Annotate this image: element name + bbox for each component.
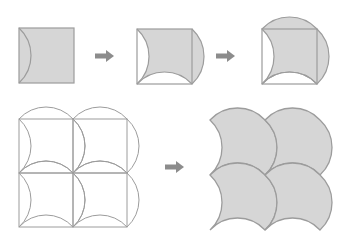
grid-cell [73, 119, 127, 173]
step-1-square [19, 28, 74, 83]
arrow-head [176, 161, 184, 173]
grid-cell [19, 119, 73, 173]
arrow-head [227, 50, 235, 62]
step-2-shape [137, 29, 204, 84]
top-arc [19, 107, 73, 119]
arrow-head [106, 50, 114, 62]
arrow-shaft [216, 54, 228, 59]
outline-grid [19, 107, 139, 227]
step-3-tile [262, 17, 329, 84]
tessellation-diagram [0, 0, 348, 246]
tessellation-result [210, 108, 332, 230]
top-arc [73, 107, 127, 119]
square [19, 28, 74, 83]
arrow-icon [165, 161, 184, 173]
arrow-shaft [95, 54, 107, 59]
arrow-icon [95, 50, 114, 62]
grid-cell [19, 173, 73, 227]
arrow-icon [216, 50, 235, 62]
right-arc [127, 173, 139, 227]
arrow-shaft [165, 165, 177, 170]
tile [262, 17, 329, 84]
grid-cell [73, 173, 127, 227]
right-arc [127, 119, 139, 173]
